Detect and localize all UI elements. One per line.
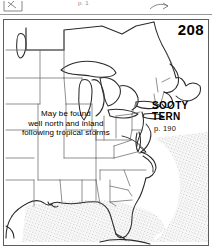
annotation-line-3: following tropical storms	[22, 128, 110, 138]
map-panel: 208 SOOTY TERN p. 190 May be found well …	[3, 19, 209, 246]
species-name-label: SOOTY TERN	[152, 100, 189, 122]
previous-panel-remnant: p. 1	[0, 0, 212, 17]
range-map-page: p. 1	[0, 0, 212, 248]
previous-panel-artwork	[0, 0, 212, 17]
annotation-line-1: May be found	[22, 109, 110, 119]
species-name-line-2: TERN	[152, 111, 189, 122]
range-annotation-note: May be found well north and inland follo…	[22, 109, 110, 138]
previous-panel-caption: p. 1	[78, 0, 89, 6]
panel-number: 208	[178, 21, 204, 38]
species-page-reference: p. 190	[154, 124, 176, 133]
species-name-line-1: SOOTY	[152, 100, 189, 111]
annotation-line-2: well north and inland	[22, 119, 110, 129]
